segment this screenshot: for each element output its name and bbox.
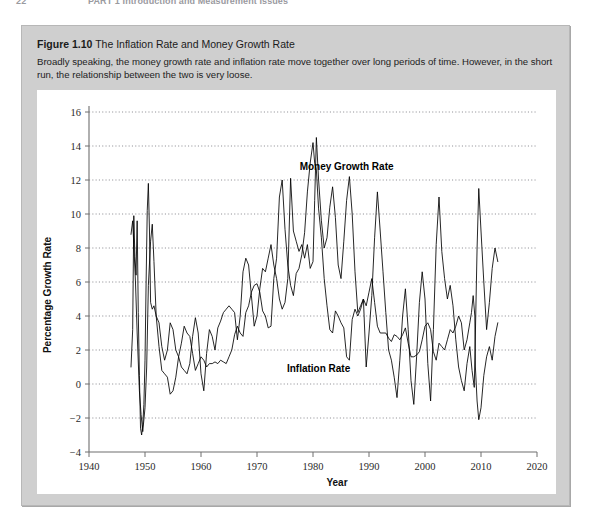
- svg-text:16: 16: [71, 107, 82, 118]
- svg-text:14: 14: [71, 141, 82, 152]
- svg-text:1950: 1950: [135, 461, 156, 472]
- svg-text:12: 12: [71, 175, 82, 186]
- svg-text:2: 2: [76, 345, 81, 356]
- figure-caption-title: Figure 1.10 The Inflation Rate and Money…: [37, 38, 557, 51]
- svg-text:1940: 1940: [79, 461, 100, 472]
- svg-text:0: 0: [76, 379, 81, 390]
- data-series: [131, 138, 498, 436]
- svg-text:2000: 2000: [415, 461, 436, 472]
- running-header: 22 PART 1 Introduction and Measurement I…: [0, 0, 589, 11]
- inflation-money-growth-chart: −4−20246810121416 1940195019601970198019…: [37, 90, 556, 494]
- figure-caption-description: Broadly speaking, the money growth rate …: [37, 56, 553, 81]
- annotation-inflation-rate: Inflation Rate: [287, 363, 351, 374]
- textbook-page: 22 PART 1 Introduction and Measurement I…: [0, 0, 589, 529]
- svg-text:1990: 1990: [359, 461, 380, 472]
- series-line-money-growth-rate: [131, 138, 498, 436]
- svg-text:1960: 1960: [191, 461, 212, 472]
- svg-text:1980: 1980: [303, 461, 324, 472]
- series-line-inflation-rate: [131, 143, 498, 432]
- svg-text:2020: 2020: [527, 461, 548, 472]
- svg-text:2010: 2010: [471, 461, 492, 472]
- annotation-money-growth-rate: Money Growth Rate: [300, 161, 394, 172]
- svg-text:4: 4: [76, 311, 82, 322]
- figure-box: Figure 1.10 The Inflation Rate and Money…: [21, 25, 570, 506]
- series-annotations: Money Growth RateInflation Rate: [287, 161, 394, 374]
- running-header-title: PART 1 Introduction and Measurement Issu…: [88, 0, 288, 6]
- chart-panel: −4−20246810121416 1940195019601970198019…: [37, 90, 556, 494]
- figure-title-text: The Inflation Rate and Money Growth Rate: [95, 38, 295, 50]
- svg-text:10: 10: [71, 209, 82, 220]
- x-axis-tick-labels: 194019501960197019801990200020102020: [79, 461, 548, 472]
- x-axis-title: Year: [326, 477, 347, 488]
- figure-label: Figure 1.10: [37, 38, 92, 50]
- svg-text:8: 8: [76, 243, 81, 254]
- y-axis-tick-labels: −4−20246810121416: [70, 107, 82, 458]
- svg-text:1970: 1970: [247, 461, 268, 472]
- y-axis-title: Percentage Growth Rate: [42, 236, 53, 353]
- svg-text:−4: −4: [70, 447, 82, 458]
- svg-text:6: 6: [76, 277, 81, 288]
- page-folio: 22: [16, 0, 26, 6]
- svg-text:−2: −2: [70, 413, 81, 424]
